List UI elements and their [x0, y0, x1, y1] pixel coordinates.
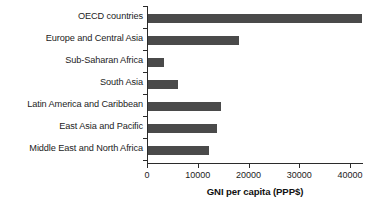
x-axis-tick-label-3: 30000 — [287, 170, 312, 180]
y-axis-tick-2 — [143, 50, 147, 51]
plot-area — [147, 6, 362, 163]
y-axis-tick-0 — [143, 6, 147, 7]
bar-chart: OECD countries Europe and Central Asia S… — [0, 0, 385, 208]
y-axis-tick-3 — [143, 72, 147, 73]
bar-south-asia — [148, 80, 178, 89]
y-axis-label-2: Sub-Saharan Africa — [0, 55, 143, 65]
y-axis-label-6: Middle East and North Africa — [0, 143, 143, 153]
y-axis-tick-5 — [143, 116, 147, 117]
x-axis-tick-1 — [198, 164, 199, 168]
x-axis-tick-0 — [147, 164, 148, 168]
y-axis-tick-7 — [143, 160, 147, 161]
x-axis-tick-label-4: 40000 — [337, 170, 362, 180]
bar-latin-america-and-caribbean — [148, 102, 221, 111]
x-axis-tick-3 — [299, 164, 300, 168]
bar-middle-east-and-north-africa — [148, 146, 209, 155]
y-axis-label-0: OECD countries — [0, 11, 143, 21]
y-axis-label-4: Latin America and Caribbean — [0, 99, 143, 109]
y-axis-tick-6 — [143, 138, 147, 139]
x-axis-tick-label-2: 20000 — [236, 170, 261, 180]
y-axis-label-1: Europe and Central Asia — [0, 33, 143, 43]
x-axis-tick-4 — [350, 164, 351, 168]
y-axis-tick-1 — [143, 28, 147, 29]
x-axis-tick-label-0: 0 — [144, 170, 149, 180]
y-axis-category-labels: OECD countries Europe and Central Asia S… — [0, 0, 143, 163]
bar-oecd-countries — [148, 14, 362, 23]
x-axis-title: GNI per capita (PPP$) — [147, 186, 363, 197]
x-axis-tick-2 — [249, 164, 250, 168]
bar-sub-saharan-africa — [148, 58, 164, 67]
y-axis-label-5: East Asia and Pacific — [0, 121, 143, 131]
y-axis-label-3: South Asia — [0, 77, 143, 87]
x-axis-tick-label-1: 10000 — [185, 170, 210, 180]
x-axis-line — [147, 163, 363, 164]
bar-europe-and-central-asia — [148, 36, 239, 45]
bar-east-asia-and-pacific — [148, 124, 217, 133]
y-axis-tick-4 — [143, 94, 147, 95]
